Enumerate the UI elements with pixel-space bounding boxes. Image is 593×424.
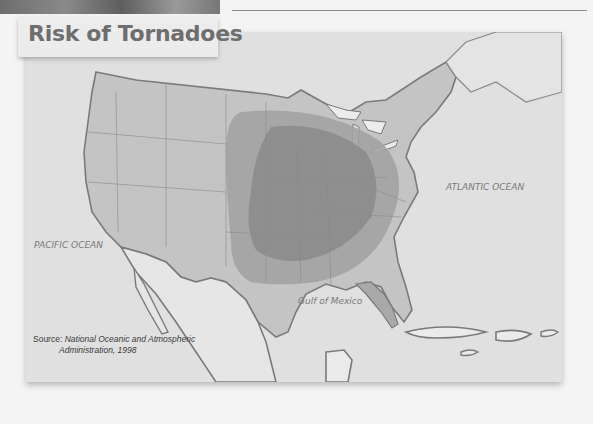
source-line-2: Administration, 1998 bbox=[33, 345, 195, 356]
atlantic-ocean-label: ATLANTIC OCEAN bbox=[446, 182, 524, 192]
page-rule bbox=[232, 10, 587, 11]
gulf-of-mexico-label: Gulf of Mexico bbox=[298, 296, 362, 306]
source-line-1: National Oceanic and Atmospheric bbox=[65, 334, 196, 344]
source-citation: Source: National Oceanic and Atmospheric… bbox=[33, 334, 195, 356]
map-title-tab: Risk of Tornadoes bbox=[18, 17, 218, 57]
header-photo-strip bbox=[0, 0, 220, 14]
map-graphic bbox=[26, 32, 562, 382]
pacific-ocean-label: PACIFIC OCEAN bbox=[34, 240, 103, 250]
map-title: Risk of Tornadoes bbox=[28, 21, 243, 46]
source-label: Source: bbox=[33, 334, 62, 344]
tornado-risk-map: ATLANTIC OCEAN PACIFIC OCEAN Gulf of Mex… bbox=[26, 32, 562, 382]
